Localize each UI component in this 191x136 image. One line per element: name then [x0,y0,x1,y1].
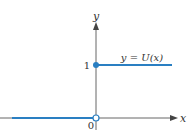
y-axis-label: y [92,10,100,23]
step-function-plot: y x 1 0 y = U(x) [0,0,191,136]
origin-label: 0 [88,120,94,131]
tick-label-one: 1 [84,60,90,71]
x-axis-label: x [180,112,187,125]
y-axis-arrow-icon [93,22,99,30]
closed-endpoint-dot [93,62,99,68]
x-axis-arrow-icon [170,115,178,121]
function-label: y = U(x) [120,52,163,63]
